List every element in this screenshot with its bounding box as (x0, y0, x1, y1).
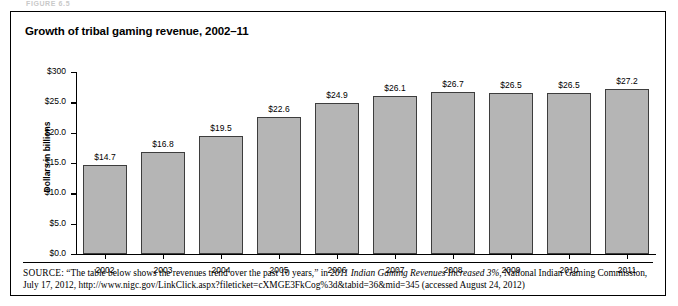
bar (199, 136, 243, 254)
bar-group: $26.52009 (482, 72, 540, 254)
bar-value-label: $22.6 (250, 104, 308, 114)
x-tick-mark (569, 254, 570, 259)
bar-group: $14.72002 (76, 72, 134, 254)
x-tick-mark (395, 254, 396, 259)
x-tick-mark (627, 254, 628, 259)
bar (431, 92, 475, 254)
x-tick-mark (511, 254, 512, 259)
x-tick-mark (163, 254, 164, 259)
bar-group: $26.52010 (540, 72, 598, 254)
bar-series: $14.72002$16.82003$19.52004$22.62005$24.… (76, 56, 656, 255)
bar (489, 93, 533, 254)
y-tick-label: $15.0 (45, 157, 66, 167)
figure-frame: Growth of tribal gaming revenue, 2002–11… (10, 11, 666, 296)
source-text-part1: “The table below shows the revenues tren… (64, 268, 330, 278)
bar-value-label: $19.5 (192, 123, 250, 133)
bar-group: $19.52004 (192, 72, 250, 254)
bar-group: $16.82003 (134, 72, 192, 254)
bar-group: $26.12007 (366, 72, 424, 254)
bar-value-label: $26.5 (482, 80, 540, 90)
y-tick-label: $5.0 (49, 218, 66, 228)
bar-value-label: $16.8 (134, 139, 192, 149)
x-tick-mark (453, 254, 454, 259)
source-note: SOURCE: “The table below shows the reven… (23, 267, 655, 292)
chart-title: Growth of tribal gaming revenue, 2002–11 (25, 25, 249, 37)
bar-group: $24.92006 (308, 72, 366, 254)
y-tick-label: $300 (47, 66, 66, 76)
bar-group: $27.22011 (598, 72, 656, 254)
bar (83, 165, 127, 254)
bar (547, 93, 591, 254)
bar-value-label: $26.5 (540, 80, 598, 90)
y-tick-label: $10.0 (45, 187, 66, 197)
plot-area: Dollars in billions $300$25.0$20.0$15.0$… (11, 56, 667, 268)
figure-number-caption: FIGURE 6.5 (26, 0, 70, 7)
bar-group: $22.62005 (250, 72, 308, 254)
figure-screenshot: FIGURE 6.5 Growth of tribal gaming reven… (0, 0, 678, 306)
source-label: SOURCE: (23, 268, 64, 278)
bar-value-label: $26.1 (366, 83, 424, 93)
bar-value-label: $14.7 (76, 152, 134, 162)
source-divider (23, 262, 653, 263)
bar-value-label: $24.9 (308, 90, 366, 100)
y-tick-label: $0.0 (49, 248, 66, 258)
bar-value-label: $26.7 (424, 79, 482, 89)
bar (257, 117, 301, 254)
bar (315, 103, 359, 254)
bar (605, 89, 649, 254)
x-tick-mark (337, 254, 338, 259)
x-tick-mark (105, 254, 106, 259)
bar (373, 96, 417, 254)
bar-value-label: $27.2 (598, 76, 656, 86)
y-tick-label: $20.0 (45, 127, 66, 137)
bar (141, 152, 185, 254)
bar-group: $26.72008 (424, 72, 482, 254)
x-tick-mark (221, 254, 222, 259)
source-italic-title: 2011 Indian Gaming Revenues Increased 3% (330, 268, 499, 278)
y-tick-label: $25.0 (45, 96, 66, 106)
x-tick-mark (279, 254, 280, 259)
